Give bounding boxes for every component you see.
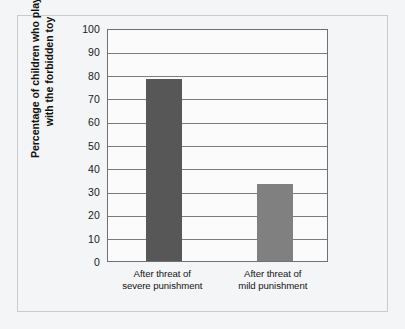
y-tick-label-30: 30 (88, 186, 100, 198)
y-tick-label-80: 80 (88, 70, 100, 82)
y-tick-label-40: 40 (88, 163, 100, 175)
x-category-label-0: After threat ofsevere punishment (107, 268, 218, 293)
y-tick-label-90: 90 (88, 46, 100, 58)
plot-wrap (107, 29, 328, 262)
x-category-label-line: mild punishment (218, 280, 329, 292)
gridline-70 (108, 99, 327, 100)
y-tick-label-0: 0 (94, 256, 100, 268)
gridline-50 (108, 146, 327, 147)
y-tick-label-60: 60 (88, 116, 100, 128)
y-axis-title-line-1: Percentage of children who played (29, 0, 43, 178)
gridline-60 (108, 123, 327, 124)
gridline-20 (108, 216, 327, 217)
gridline-80 (108, 76, 327, 77)
gridline-30 (108, 193, 327, 194)
y-tick-label-50: 50 (88, 140, 100, 152)
x-category-label-line: After threat of (218, 268, 329, 280)
y-tick-label-20: 20 (88, 209, 100, 221)
x-category-label-line: After threat of (107, 268, 218, 280)
gridline-40 (108, 169, 327, 170)
y-tick-label-100: 100 (82, 23, 100, 35)
y-axis-tick-labels: 0102030405060708090100 (60, 29, 104, 262)
x-axis-category-labels: After threat ofsevere punishmentAfter th… (107, 268, 328, 302)
gridline-10 (108, 239, 327, 240)
bar-1 (257, 184, 293, 261)
y-tick-label-10: 10 (88, 233, 100, 245)
plot-area (107, 29, 328, 262)
bar-0 (146, 79, 182, 261)
y-axis-title-line-2: with the forbidden toy (42, 0, 56, 178)
gridline-90 (108, 53, 327, 54)
x-category-label-1: After threat ofmild punishment (218, 268, 329, 293)
x-category-label-line: severe punishment (107, 280, 218, 292)
y-tick-label-70: 70 (88, 93, 100, 105)
y-axis-title: Percentage of children who played with t… (29, 0, 56, 178)
figure: Percentage of children who played with t… (0, 0, 405, 329)
